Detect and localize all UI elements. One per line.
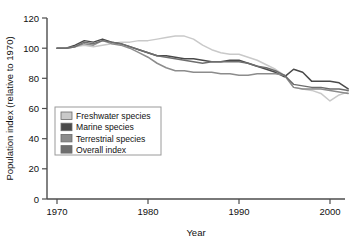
chart-figure: 0 20 40 60 80 100 120 Population index (… xyxy=(0,0,351,246)
y-tick-label-40: 40 xyxy=(28,133,39,144)
x-axis-ticks xyxy=(57,199,330,204)
series-line-freshwater-species xyxy=(57,36,348,101)
y-tick-label-0: 0 xyxy=(34,194,39,205)
chart-legend: Freshwater speciesMarine speciesTerrestr… xyxy=(55,107,161,155)
y-axis-tick-labels: 0 20 40 60 80 100 120 xyxy=(23,13,39,205)
y-axis-ticks xyxy=(42,18,47,199)
x-tick-label-2000: 2000 xyxy=(319,206,340,217)
legend-swatch-overall-index xyxy=(61,146,72,154)
line-chart-svg: 0 20 40 60 80 100 120 Population index (… xyxy=(0,0,351,246)
y-tick-label-120: 120 xyxy=(23,13,39,24)
y-tick-label-100: 100 xyxy=(23,43,39,54)
x-axis-title: Year xyxy=(186,227,205,238)
x-tick-label-1970: 1970 xyxy=(46,206,67,217)
legend-label-freshwater-species: Freshwater species xyxy=(76,111,151,121)
series-line-marine-species xyxy=(57,39,348,89)
legend-swatch-terrestrial-species xyxy=(61,134,72,142)
y-axis-title: Population index (relative to 1970) xyxy=(4,36,15,180)
series-line-overall-index xyxy=(57,41,348,91)
x-axis: 1970 1980 1990 2000 Year xyxy=(46,199,345,238)
x-axis-tick-labels: 1970 1980 1990 2000 xyxy=(46,206,340,217)
y-tick-label-60: 60 xyxy=(28,103,39,114)
legend-swatch-marine-species xyxy=(61,123,72,131)
series-group xyxy=(57,36,348,101)
y-tick-label-80: 80 xyxy=(28,73,39,84)
legend-label-terrestrial-species: Terrestrial species xyxy=(76,134,145,144)
legend-swatch-freshwater-species xyxy=(61,112,72,120)
x-tick-label-1990: 1990 xyxy=(228,206,249,217)
x-tick-label-1980: 1980 xyxy=(137,206,158,217)
legend-label-marine-species: Marine species xyxy=(76,122,134,132)
legend-label-overall-index: Overall index xyxy=(76,145,127,155)
y-axis: 0 20 40 60 80 100 120 Population index (… xyxy=(4,13,47,205)
y-tick-label-20: 20 xyxy=(28,163,39,174)
